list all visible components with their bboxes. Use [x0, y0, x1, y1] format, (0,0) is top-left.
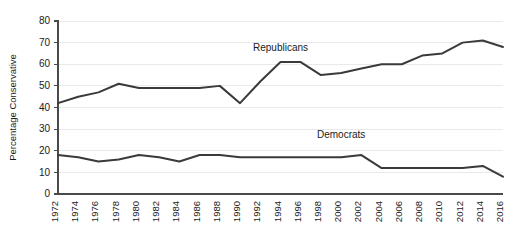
y-axis [54, 20, 58, 194]
y-tick-label: 60 [39, 58, 51, 69]
line-chart: 01020304050607080 1972197419761978198019… [0, 0, 520, 238]
series-annotation-republicans: Republicans [253, 42, 308, 53]
x-tick-labels: 1972197419761978198019821984198619881990… [49, 201, 505, 222]
y-tick-label: 10 [39, 167, 51, 178]
x-tick-label: 1992 [251, 201, 262, 222]
x-tick-label: 2004 [373, 201, 384, 222]
x-tick-label: 1986 [191, 201, 202, 222]
x-tick-label: 2016 [494, 201, 505, 222]
y-tick-label: 30 [39, 123, 51, 134]
x-tick-label: 2014 [474, 201, 485, 222]
x-tick-label: 1978 [110, 201, 121, 222]
x-tick-label: 2002 [352, 201, 363, 222]
series-annotation-democrats: Democrats [317, 129, 365, 140]
x-tick-label: 1998 [312, 201, 323, 222]
x-tick-label: 1982 [150, 201, 161, 222]
x-tick-label: 1974 [69, 201, 80, 222]
y-tick-label: 70 [39, 37, 51, 48]
y-tick-label: 50 [39, 80, 51, 91]
chart-container: 01020304050607080 1972197419761978198019… [0, 0, 520, 238]
series-lines [58, 40, 503, 176]
x-tick-label: 2000 [332, 201, 343, 222]
y-tick-labels: 01020304050607080 [39, 15, 51, 199]
y-tick-label: 0 [44, 188, 50, 199]
x-tick-label: 2006 [393, 201, 404, 222]
x-tick-label: 1994 [272, 201, 283, 222]
x-tick-label: 2010 [433, 201, 444, 222]
y-axis-title-text: Percentage Conservative [7, 54, 18, 161]
y-tick-label: 80 [39, 15, 51, 26]
y-axis-title: Percentage Conservative [7, 54, 18, 161]
x-tick-label: 1996 [292, 201, 303, 222]
x-tick-label: 1972 [49, 201, 60, 222]
x-tick-label: 1984 [170, 201, 181, 222]
x-tick-label: 2008 [413, 201, 424, 222]
x-tick-label: 1980 [130, 201, 141, 222]
x-tick-label: 1988 [211, 201, 222, 222]
x-tick-label: 1990 [231, 201, 242, 222]
y-tick-label: 40 [39, 102, 51, 113]
series-line-democrats [58, 155, 503, 177]
x-tick-label: 1976 [89, 201, 100, 222]
series-annotations: RepublicansDemocrats [253, 42, 365, 139]
x-tick-label: 2012 [454, 201, 465, 222]
y-tick-label: 20 [39, 145, 51, 156]
